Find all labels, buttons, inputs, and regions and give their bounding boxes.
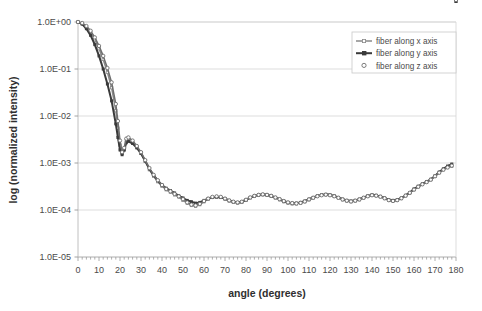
data-point-marker: [341, 198, 344, 201]
data-point-marker: [156, 179, 159, 182]
data-point-marker: [425, 180, 428, 183]
x-axis-tick-label: 160: [406, 265, 421, 275]
data-point-marker: [261, 193, 264, 196]
data-point-marker: [240, 200, 243, 203]
data-point-marker: [274, 196, 277, 199]
data-point-marker: [408, 191, 411, 194]
legend-marker-icon: [362, 63, 366, 67]
line-chart: 0102030405060708090100110120130140150160…: [0, 0, 482, 311]
data-point-marker: [354, 199, 357, 202]
data-point-marker: [102, 68, 105, 71]
x-axis-tick-label: 100: [280, 265, 295, 275]
data-point-marker: [223, 197, 226, 200]
series-2: [77, 0, 458, 205]
data-point-marker: [404, 194, 407, 197]
data-point-marker: [190, 203, 193, 206]
data-point-marker: [433, 175, 436, 178]
data-point-marker: [442, 168, 445, 171]
y-axis-tick-label: 1.0E-01: [39, 64, 71, 74]
data-point-marker: [135, 144, 138, 147]
data-point-marker: [278, 197, 281, 200]
x-axis-tick-label: 50: [178, 265, 188, 275]
data-point-marker: [286, 201, 289, 204]
x-axis-tick-label: 180: [448, 265, 463, 275]
data-point-marker: [320, 194, 323, 197]
series-1: [77, 0, 457, 207]
y-axis-tick-marks: [75, 22, 79, 257]
y-axis-tick-label: 1.0E-02: [39, 111, 71, 121]
data-point-marker: [379, 195, 382, 198]
x-axis-tick-label: 40: [157, 265, 167, 275]
data-point-marker: [429, 178, 432, 181]
x-axis-tick-label: 120: [322, 265, 337, 275]
x-axis-tick-label: 0: [75, 265, 80, 275]
y-axis-tick-label: 1.0E-05: [39, 252, 71, 262]
chart-container: 0102030405060708090100110120130140150160…: [0, 0, 482, 311]
x-axis-tick-label: 60: [199, 265, 209, 275]
data-point-marker: [265, 193, 268, 196]
data-point-marker: [391, 199, 394, 202]
data-point-marker: [98, 54, 101, 57]
data-point-marker: [93, 43, 96, 46]
series-3: [76, 0, 457, 207]
data-point-marker: [362, 196, 365, 199]
x-axis-title: angle (degrees): [228, 287, 306, 299]
data-point-marker: [186, 201, 189, 204]
x-axis-tick-label: 20: [115, 265, 125, 275]
data-point-marker: [337, 196, 340, 199]
data-point-marker: [139, 150, 142, 153]
data-point-marker: [253, 194, 256, 197]
data-point-marker: [345, 199, 348, 202]
data-point-marker: [123, 146, 126, 149]
data-point-marker: [144, 158, 147, 161]
data-point-marker: [383, 197, 386, 200]
y-axis-tick-label: 1.0E+00: [37, 17, 71, 27]
data-point-marker: [89, 34, 92, 37]
data-point-marker: [102, 54, 105, 57]
data-point-marker: [375, 194, 378, 197]
data-point-marker: [127, 136, 130, 139]
data-point-marker: [85, 24, 88, 27]
data-point-marker: [333, 195, 336, 198]
data-point-marker: [270, 194, 273, 197]
data-point-marker: [160, 183, 163, 186]
data-series-layer: [76, 0, 457, 207]
data-point-marker: [417, 185, 420, 188]
data-point-marker: [116, 119, 119, 122]
data-point-marker: [211, 195, 214, 198]
data-point-marker: [228, 199, 231, 202]
data-point-marker: [219, 195, 222, 198]
x-axis-tick-label: 90: [262, 265, 272, 275]
data-point-marker: [148, 166, 151, 169]
data-point-marker: [396, 198, 399, 201]
data-point-marker: [173, 192, 176, 195]
data-point-marker: [181, 197, 184, 200]
data-point-marker: [169, 190, 172, 193]
data-point-marker: [194, 204, 197, 207]
data-point-marker: [165, 187, 168, 190]
data-point-marker: [328, 194, 331, 197]
y-axis-tick-label: 1.0E-04: [39, 205, 71, 215]
data-point-marker: [295, 202, 298, 205]
data-point-marker: [131, 139, 134, 142]
data-point-marker: [387, 198, 390, 201]
data-point-marker: [152, 173, 155, 176]
x-axis-tick-label: 70: [220, 265, 230, 275]
legend-label: fiber along x axis: [376, 37, 437, 46]
data-point-marker: [257, 193, 260, 196]
legend-marker-icon: [362, 39, 365, 42]
data-point-marker: [400, 197, 403, 200]
data-point-marker: [312, 196, 315, 199]
data-point-marker: [232, 200, 235, 203]
x-axis-tick-label: 140: [364, 265, 379, 275]
data-point-marker: [282, 199, 285, 202]
data-point-marker: [421, 183, 424, 186]
data-point-marker: [370, 194, 373, 197]
data-point-marker: [202, 199, 205, 202]
x-axis-tick-labels: 0102030405060708090100110120130140150160…: [75, 265, 463, 275]
data-point-marker: [244, 198, 247, 201]
data-point-marker: [110, 81, 113, 84]
data-point-marker: [249, 196, 252, 199]
data-point-marker: [316, 195, 319, 198]
data-point-marker: [177, 195, 180, 198]
